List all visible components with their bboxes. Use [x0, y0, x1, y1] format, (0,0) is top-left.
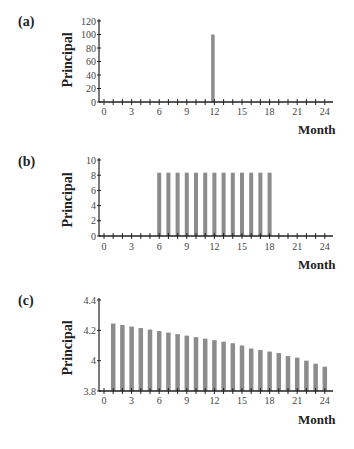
bar [166, 333, 171, 391]
bar [277, 353, 282, 391]
svg-text:120: 120 [81, 16, 96, 27]
svg-text:6: 6 [157, 395, 162, 406]
svg-text:21: 21 [292, 395, 302, 406]
bar [120, 325, 125, 391]
x-axis-label-a: Month [298, 122, 336, 138]
bar [286, 356, 291, 391]
bar [185, 336, 190, 391]
bar [258, 173, 262, 236]
svg-text:3.8: 3.8 [84, 386, 97, 397]
svg-text:10: 10 [86, 155, 96, 166]
svg-text:12: 12 [209, 395, 219, 406]
bar [268, 173, 272, 236]
svg-text:2: 2 [91, 215, 96, 226]
svg-text:3: 3 [129, 241, 134, 252]
svg-text:21: 21 [292, 106, 302, 117]
svg-text:4: 4 [91, 355, 96, 366]
svg-text:40: 40 [86, 70, 96, 81]
svg-text:4: 4 [91, 200, 96, 211]
bar [267, 352, 272, 391]
bar [304, 361, 309, 391]
svg-text:24: 24 [320, 395, 330, 406]
bar [157, 331, 162, 391]
svg-text:20: 20 [86, 83, 96, 94]
svg-text:4.4: 4.4 [84, 295, 97, 306]
panel-c: (c) Principal 3.844.24.403691215182124 M… [0, 280, 354, 449]
bar [203, 339, 208, 391]
svg-text:18: 18 [265, 395, 275, 406]
svg-text:3: 3 [129, 106, 134, 117]
bar [129, 327, 134, 391]
svg-text:15: 15 [237, 395, 247, 406]
panel-b: (b) Principal 024681003691215182124 Mont… [0, 140, 354, 280]
bar [139, 328, 144, 391]
bar [203, 173, 207, 236]
bar [212, 340, 217, 391]
bar [176, 173, 180, 236]
svg-text:6: 6 [157, 241, 162, 252]
svg-text:24: 24 [320, 106, 330, 117]
svg-text:0: 0 [102, 395, 107, 406]
svg-text:24: 24 [320, 241, 330, 252]
svg-text:9: 9 [184, 241, 189, 252]
bar [185, 173, 189, 236]
svg-text:6: 6 [157, 106, 162, 117]
bar [240, 173, 244, 236]
svg-text:12: 12 [209, 106, 219, 117]
bar [194, 337, 199, 391]
bar [231, 173, 235, 236]
bar [249, 349, 254, 391]
svg-text:9: 9 [184, 106, 189, 117]
bar [166, 173, 170, 236]
svg-text:80: 80 [86, 43, 96, 54]
bar [249, 173, 253, 236]
svg-text:4.2: 4.2 [84, 325, 97, 336]
bar [323, 367, 328, 391]
svg-text:0: 0 [91, 231, 96, 242]
bar [211, 35, 215, 103]
bar [295, 358, 300, 391]
bar [157, 173, 161, 236]
svg-text:9: 9 [184, 395, 189, 406]
svg-text:21: 21 [292, 241, 302, 252]
svg-text:60: 60 [86, 56, 96, 67]
bar [221, 342, 226, 391]
svg-text:15: 15 [237, 106, 247, 117]
panel-a: (a) Principal 02040608010012003691215182… [0, 0, 354, 140]
svg-text:100: 100 [81, 29, 96, 40]
x-axis-label-c: Month [298, 412, 336, 428]
svg-text:0: 0 [102, 241, 107, 252]
svg-text:6: 6 [91, 185, 96, 196]
bar [194, 173, 198, 236]
svg-text:12: 12 [209, 241, 219, 252]
svg-text:18: 18 [265, 241, 275, 252]
bar [148, 330, 153, 391]
bar [111, 324, 116, 391]
svg-text:8: 8 [91, 170, 96, 181]
bar [240, 346, 245, 392]
svg-text:0: 0 [102, 106, 107, 117]
bar [313, 364, 318, 391]
x-axis-label-b: Month [298, 257, 336, 273]
svg-text:0: 0 [91, 97, 96, 108]
svg-text:15: 15 [237, 241, 247, 252]
chart-a: 02040608010012003691215182124 [0, 0, 354, 140]
bar [212, 173, 216, 236]
bar [258, 350, 263, 391]
bar [231, 343, 236, 391]
bar [175, 334, 180, 391]
svg-text:18: 18 [265, 106, 275, 117]
bar [222, 173, 226, 236]
svg-text:3: 3 [129, 395, 134, 406]
